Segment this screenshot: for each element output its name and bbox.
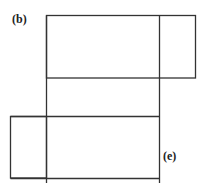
bottom-left-face <box>11 117 47 179</box>
net-diagram <box>0 0 197 183</box>
top-face <box>47 16 196 79</box>
